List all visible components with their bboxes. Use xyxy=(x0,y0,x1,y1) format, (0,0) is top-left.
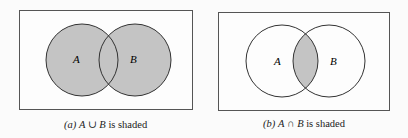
set-a-label: A xyxy=(274,55,281,67)
set-a-label: A xyxy=(73,53,80,65)
caption-set-a: A xyxy=(79,119,85,130)
caption-set-b: B xyxy=(99,119,105,130)
caption-set-b: B xyxy=(297,118,303,129)
caption-suffix: is shaded xyxy=(108,119,147,130)
union-symbol: ∪ xyxy=(88,119,97,130)
caption-prefix: (b) xyxy=(263,118,275,129)
venn-diagrams xyxy=(0,0,408,138)
venn-intersection-diagram xyxy=(219,13,390,111)
caption-prefix: (a) xyxy=(64,119,76,130)
caption-suffix: is shaded xyxy=(306,118,345,129)
set-b-label: B xyxy=(330,55,337,67)
intersection-symbol: ∩ xyxy=(287,118,295,129)
venn-union-diagram xyxy=(20,11,193,110)
caption-a: (a) A ∪ B is shaded xyxy=(64,118,147,130)
caption-set-a: A xyxy=(278,118,284,129)
set-b-label: B xyxy=(130,53,137,65)
caption-b: (b) A ∩ B is shaded xyxy=(263,118,345,129)
